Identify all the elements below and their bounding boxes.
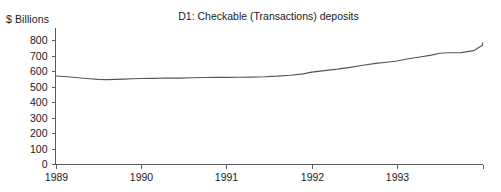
x-axis-tick-label: 1993 (386, 171, 410, 183)
chart-container: $ Billions D1: Checkable (Transactions) … (0, 0, 501, 192)
y-axis-tick-group: 8007006005004003002001000 (30, 34, 56, 170)
data-series-line (56, 43, 483, 80)
x-axis-tick-label: 1990 (130, 171, 154, 183)
y-axis-tick-label: 0 (42, 158, 48, 170)
y-axis-tick-label: 400 (30, 96, 48, 108)
y-axis-tick-label: 200 (30, 127, 48, 139)
y-axis-tick-label: 100 (30, 143, 48, 155)
x-axis-tick-label: 1991 (215, 171, 239, 183)
y-axis-tick-label: 300 (30, 112, 48, 124)
y-axis-tick-label: 700 (30, 50, 48, 62)
line-chart-plot: 8007006005004003002001000 19891990199119… (0, 0, 501, 192)
x-axis-tick-label: 1992 (301, 171, 325, 183)
x-axis-tick-label: 1989 (45, 171, 69, 183)
y-axis-tick-label: 600 (30, 65, 48, 77)
y-axis-tick-label: 800 (30, 34, 48, 46)
y-axis-tick-label: 500 (30, 81, 48, 93)
x-axis-tick-group: 19891990199119921993 (45, 165, 484, 183)
